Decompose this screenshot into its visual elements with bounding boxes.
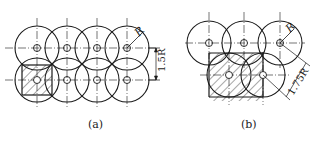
spacing-label-b: 1.75R: [285, 66, 310, 97]
caption-a: (a): [88, 118, 103, 131]
spacing-label-a: 1.5R: [156, 48, 167, 72]
caption-b: (b): [241, 118, 257, 131]
diagram-canvas: R 1.5R R 1.75R (a) (b): [0, 0, 320, 141]
radius-label-a: R: [131, 24, 147, 40]
radius-label-b: R: [282, 20, 298, 36]
